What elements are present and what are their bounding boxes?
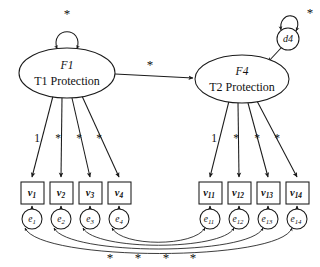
indicator-node-v1[interactable]: v1 [21, 182, 44, 204]
corr-star-2: * [135, 250, 142, 265]
error-circles-right: e11 e12 e13 e14 [200, 209, 307, 229]
e3-sub: 3 [89, 218, 94, 225]
f1-name-label: T1 Protection [34, 74, 100, 88]
corr-star-1: * [107, 250, 114, 265]
corr-star-4: * [190, 250, 197, 265]
f1-to-f4-label: * [147, 57, 154, 72]
v4-sub: 4 [118, 191, 123, 200]
d4-variance-loop: * [281, 5, 313, 31]
loading-label-v12: * [233, 132, 239, 144]
error-node-e1[interactable]: e1 [22, 209, 42, 229]
f1-variance-loop: * [56, 6, 78, 49]
corr-star-3: * [163, 250, 170, 265]
e1-sub: 1 [32, 218, 35, 225]
v11-sub: 11 [208, 191, 215, 200]
v14-sub: 14 [295, 191, 303, 200]
v12-sub: 12 [237, 191, 245, 200]
error-circles-left: e1 e2 e3 e4 [22, 209, 129, 229]
indicator-boxes-left: v1 v2 v3 v4 [21, 182, 131, 204]
f1-id-label: F1 [60, 59, 74, 71]
indicator-node-v14[interactable]: v14 [286, 182, 309, 204]
indicator-node-v2[interactable]: v2 [50, 182, 73, 204]
d4-variance-label: * [307, 5, 314, 20]
loading-label-v11: 1 [211, 132, 217, 144]
error-node-e2[interactable]: e2 [51, 209, 71, 229]
sem-path-diagram: * * * [0, 0, 320, 267]
e13-sub: 13 [266, 218, 273, 225]
f4-id-label: F4 [235, 65, 249, 77]
error-node-e11[interactable]: e11 [200, 209, 220, 229]
indicator-boxes-right: v11 v12 v13 v14 [199, 182, 309, 204]
e14-sub: 14 [295, 218, 302, 225]
indicator-node-v4[interactable]: v4 [108, 182, 131, 204]
f1-to-f4-path: * [115, 57, 193, 78]
loading-label-v2: * [55, 132, 61, 144]
loading-label-v1: 1 [34, 132, 40, 144]
e4-sub: 4 [119, 218, 123, 225]
indicator-node-v11[interactable]: v11 [199, 182, 222, 204]
loading-label-v4: * [96, 132, 102, 144]
error-node-e12[interactable]: e12 [229, 209, 249, 229]
factor-node-f1[interactable]: F1 T1 Protection [19, 48, 115, 98]
error-node-e4[interactable]: e4 [109, 209, 129, 229]
d4-label: d4 [283, 33, 293, 44]
indicator-node-v13[interactable]: v13 [257, 182, 280, 204]
e11-sub: 11 [208, 218, 214, 225]
loading-label-v14: * [274, 132, 280, 144]
error-node-e13[interactable]: e13 [258, 209, 278, 229]
error-correlation-curves [25, 228, 292, 254]
loading-label-v13: * [254, 132, 260, 144]
diagram-canvas: * * * [0, 0, 320, 267]
v1-sub: 1 [32, 191, 36, 200]
v3-sub: 3 [89, 191, 94, 200]
error-arrows-left [32, 206, 119, 209]
f1-variance-label: * [64, 6, 71, 21]
indicator-node-v3[interactable]: v3 [79, 182, 102, 204]
loading-label-v3: * [76, 132, 82, 144]
v13-sub: 13 [266, 191, 274, 200]
f4-name-label: T2 Protection [209, 80, 275, 94]
e2-sub: 2 [61, 218, 65, 225]
e12-sub: 12 [237, 218, 244, 225]
disturbance-node-d4[interactable]: d4 [277, 28, 299, 50]
factor-node-f4[interactable]: F4 T2 Protection [195, 55, 289, 103]
loading-labels-left: 1 * * * [34, 132, 102, 144]
v2-sub: 2 [60, 191, 65, 200]
indicator-node-v12[interactable]: v12 [228, 182, 251, 204]
error-arrows-right [210, 206, 297, 209]
loading-labels-right: 1 * * * [211, 132, 280, 144]
error-node-e3[interactable]: e3 [80, 209, 100, 229]
error-node-e14[interactable]: e14 [287, 209, 307, 229]
